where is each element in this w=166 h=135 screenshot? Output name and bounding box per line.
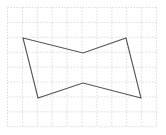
- grid-diagram: [0, 0, 166, 135]
- diagram-canvas: [0, 0, 166, 135]
